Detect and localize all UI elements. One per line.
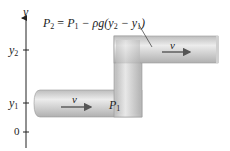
lower-velocity-label: v <box>72 94 77 105</box>
pressure-p1-label: P1 <box>109 99 120 113</box>
y-axis-label: y <box>23 6 28 18</box>
y-axis <box>23 18 29 148</box>
upper-velocity-label: v <box>170 40 175 51</box>
pressure-equation: P2 = P1 − ρg(y2 − y1) <box>43 17 145 31</box>
pipe <box>34 36 219 117</box>
tick-label-y2: y2 <box>9 44 18 58</box>
tick-label-zero: 0 <box>14 126 20 137</box>
tick-label-y1: y1 <box>9 97 18 111</box>
